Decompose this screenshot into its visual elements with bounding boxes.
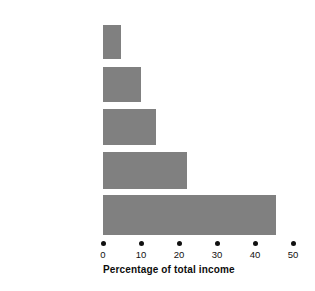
- x-axis-tick-dot: [215, 241, 220, 246]
- x-axis-tick-label: 40: [235, 249, 275, 261]
- bar-poorest-20-percent: [103, 25, 121, 59]
- x-axis-tick-label: 0: [83, 249, 123, 261]
- x-axis-tick-dot: [177, 241, 182, 246]
- bar-chart-figure: Poorest 20 percent Second 20 percent Thi…: [0, 0, 315, 291]
- bar-row: Poorest 20 percent: [103, 25, 293, 59]
- plot-area: Poorest 20 percent Second 20 percent Thi…: [103, 23, 293, 237]
- bar-row: Fourth 20 percent: [103, 152, 293, 189]
- x-axis-tick-dot: [291, 241, 296, 246]
- x-axis-ticks: [103, 241, 293, 249]
- x-axis-tick-label: 20: [159, 249, 199, 261]
- bar-richest-20-percent: [103, 195, 276, 235]
- x-axis-tick-label: 30: [197, 249, 237, 261]
- bar-fourth-20-percent: [103, 152, 187, 189]
- bar-row: Richest 20 percent: [103, 195, 293, 235]
- bar-row: Second 20 percent: [103, 67, 293, 102]
- bar-row: Third 20 percent: [103, 109, 293, 145]
- x-axis-title: Percentage of total income: [103, 264, 235, 275]
- x-axis-tick-dot: [139, 241, 144, 246]
- bar-second-20-percent: [103, 67, 141, 102]
- x-axis-tick-dot: [253, 241, 258, 246]
- bar-third-20-percent: [103, 109, 156, 145]
- x-axis-tick-label: 10: [121, 249, 161, 261]
- x-axis-tick-dot: [101, 241, 106, 246]
- x-axis-tick-labels: 01020304050: [103, 249, 293, 263]
- x-axis-tick-label: 50: [273, 249, 313, 261]
